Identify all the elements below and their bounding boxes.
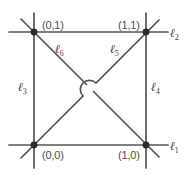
ell-subscript-l4: 4 xyxy=(156,87,160,96)
ell-subscript-l6: 6 xyxy=(60,49,64,58)
point-label-bottom-right: (1,0) xyxy=(118,150,140,161)
vertex-dot-bottom-left xyxy=(31,142,38,149)
point-label-top-left: (0,1) xyxy=(42,20,64,31)
ell-glyph-l2: ℓ xyxy=(170,26,175,40)
ell-glyph-l3: ℓ xyxy=(18,80,23,94)
ell-subscript-l1: 1 xyxy=(175,146,179,155)
line-label-l3: ℓ3 xyxy=(18,81,27,93)
vertex-dot-bottom-right xyxy=(143,142,150,149)
ell-subscript-l2: 2 xyxy=(175,33,179,42)
vertex-dot-top-right xyxy=(143,29,150,36)
ell-glyph-l5: ℓ xyxy=(110,42,115,56)
line-label-l6: ℓ6 xyxy=(55,43,64,55)
ell-glyph-l1: ℓ xyxy=(170,139,175,153)
line-label-l4: ℓ4 xyxy=(151,81,160,93)
line-label-l1: ℓ1 xyxy=(170,140,179,152)
ell-subscript-l5: 5 xyxy=(115,49,119,58)
vertex-dot-top-left xyxy=(31,29,38,36)
line-configuration-drawing xyxy=(0,0,194,179)
ell-glyph-l4: ℓ xyxy=(151,80,156,94)
figure-canvas: (0,1) (1,1) (0,0) (1,0) ℓ2 ℓ1 ℓ3 ℓ4 ℓ6 ℓ… xyxy=(0,0,194,179)
line-label-l2: ℓ2 xyxy=(170,27,179,39)
ell-subscript-l3: 3 xyxy=(23,87,27,96)
point-label-top-right: (1,1) xyxy=(118,20,140,31)
ell-glyph-l6: ℓ xyxy=(55,42,60,56)
point-label-bottom-left: (0,0) xyxy=(42,150,64,161)
line-label-l5: ℓ5 xyxy=(110,43,119,55)
